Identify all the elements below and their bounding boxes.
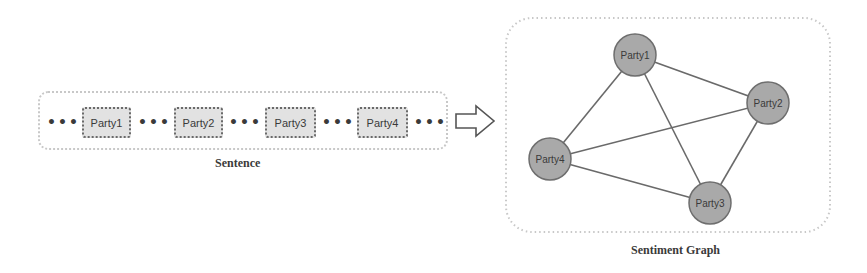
graph-node-party2: Party2 (747, 82, 789, 124)
graph-nodes: Party1Party2Party3Party4 (529, 34, 789, 224)
graph-edge-party3-party4 (550, 159, 710, 203)
graph-container (506, 18, 830, 232)
graph-caption: Sentiment Graph (631, 243, 720, 258)
node-label: Party4 (536, 154, 565, 165)
graph-node-party1: Party1 (614, 34, 656, 76)
sentiment-graph: Party1Party2Party3Party4 (0, 0, 867, 273)
graph-edge-party2-party4 (550, 103, 768, 159)
diagram: ••• Party1 ••• Party2 ••• Party3 ••• Par… (0, 0, 867, 273)
graph-node-party4: Party4 (529, 138, 571, 180)
graph-node-party3: Party3 (689, 182, 731, 224)
node-label: Party2 (754, 98, 783, 109)
node-label: Party1 (621, 50, 650, 61)
graph-edges (550, 55, 768, 203)
node-label: Party3 (696, 198, 725, 209)
